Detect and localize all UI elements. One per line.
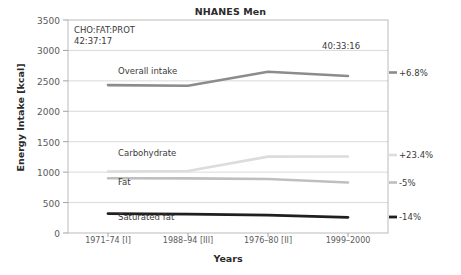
chart-figure: NHANES Men Energy Intake [kcal] Years 35… xyxy=(0,0,461,275)
pct-swatches xyxy=(389,73,397,218)
x-tick-4: 1999–2000 xyxy=(308,236,388,246)
series-label-fat: Fat xyxy=(118,177,131,187)
x-tick-2: 1988–94 [III] xyxy=(148,236,228,246)
series-label-carbohydrate: Carbohydrate xyxy=(118,148,176,158)
pct-label-overall-intake: +6.8% xyxy=(399,68,428,78)
pct-label-fat: -5% xyxy=(399,178,416,188)
x-tick-3: 1976–80 [II] xyxy=(228,236,308,246)
ratio-first-label: 42:37:17 xyxy=(74,36,112,47)
series-label-overall-intake: Overall intake xyxy=(118,66,177,76)
y-axis-ticks xyxy=(63,20,68,233)
pct-label-carbohydrate: +23.4% xyxy=(399,150,433,160)
ratio-header-label: CHO:FAT:PROT xyxy=(74,25,135,36)
series-label-saturated-fat: Saturated fat xyxy=(118,212,174,222)
plot-canvas xyxy=(0,0,461,275)
pct-label-saturated-fat: -14% xyxy=(399,212,421,222)
x-tick-1: 1971–74 [I] xyxy=(68,236,148,246)
ratio-last-label: 40:33:16 xyxy=(322,41,360,52)
